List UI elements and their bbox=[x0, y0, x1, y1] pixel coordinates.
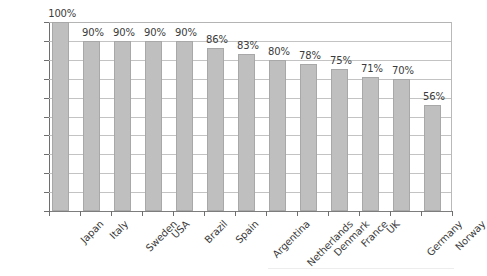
bar-value-label: 90% bbox=[175, 28, 197, 38]
x-axis-category-label: Italy bbox=[108, 219, 130, 241]
bar bbox=[238, 54, 255, 211]
x-axis-tick-mark bbox=[111, 211, 112, 216]
x-axis-tick-mark bbox=[235, 211, 236, 216]
x-axis-category-label: Japan bbox=[79, 219, 105, 245]
bar-value-label: 78% bbox=[299, 51, 321, 61]
x-axis-category-label: Brazil bbox=[203, 219, 229, 245]
x-axis-tick-mark bbox=[173, 211, 174, 216]
bar bbox=[393, 79, 410, 211]
bar-value-label: 86% bbox=[206, 35, 228, 45]
x-axis-category-label-text: Spain bbox=[234, 219, 260, 245]
bar-value-label: 83% bbox=[237, 41, 259, 51]
x-axis-tick-mark bbox=[297, 211, 298, 216]
gridline bbox=[49, 22, 452, 23]
x-axis-category-label: Spain bbox=[234, 219, 260, 245]
bar bbox=[269, 60, 286, 211]
x-axis-category-label-text: UK bbox=[385, 219, 402, 236]
bar bbox=[424, 105, 441, 211]
x-axis-tick-mark bbox=[266, 211, 267, 216]
bar bbox=[300, 64, 317, 211]
bar-value-label: 75% bbox=[330, 56, 352, 66]
bar-value-label: 90% bbox=[82, 28, 104, 38]
bar bbox=[331, 69, 348, 211]
x-axis-tick-mark bbox=[452, 211, 453, 216]
bar bbox=[207, 48, 224, 211]
bar-value-label: 70% bbox=[392, 66, 414, 76]
x-axis-tick-mark bbox=[359, 211, 360, 216]
x-axis-tick-mark bbox=[421, 211, 422, 216]
bar bbox=[176, 41, 193, 211]
bar bbox=[362, 77, 379, 211]
x-axis-tick-mark bbox=[80, 211, 81, 216]
x-axis-category-label-text: Brazil bbox=[203, 219, 229, 245]
x-axis-category-label-text: Argentina bbox=[271, 219, 312, 260]
x-axis-tick-mark bbox=[142, 211, 143, 216]
bar bbox=[114, 41, 131, 211]
bar bbox=[52, 22, 69, 211]
x-axis-tick-mark bbox=[49, 211, 50, 216]
plot-right-border bbox=[451, 22, 452, 211]
bar-value-label: 56% bbox=[423, 92, 445, 102]
x-axis-category-label-text: Japan bbox=[79, 219, 105, 245]
bar bbox=[145, 41, 162, 211]
scan-artifact-line bbox=[268, 268, 454, 269]
bar-value-label: 90% bbox=[113, 28, 135, 38]
x-axis-category-label: Argentina bbox=[271, 219, 312, 260]
gridline bbox=[49, 211, 452, 212]
bar bbox=[83, 41, 100, 211]
bar-value-label: 80% bbox=[268, 47, 290, 57]
bar-value-label: 71% bbox=[361, 64, 383, 74]
x-axis-category-label-text: Italy bbox=[108, 219, 130, 241]
bar-value-label: 90% bbox=[144, 28, 166, 38]
x-axis-tick-mark bbox=[204, 211, 205, 216]
bar-value-label: 100% bbox=[48, 9, 76, 19]
x-axis-tick-mark bbox=[328, 211, 329, 216]
x-axis-tick-mark bbox=[390, 211, 391, 216]
x-axis-category-label: UK bbox=[385, 219, 402, 236]
